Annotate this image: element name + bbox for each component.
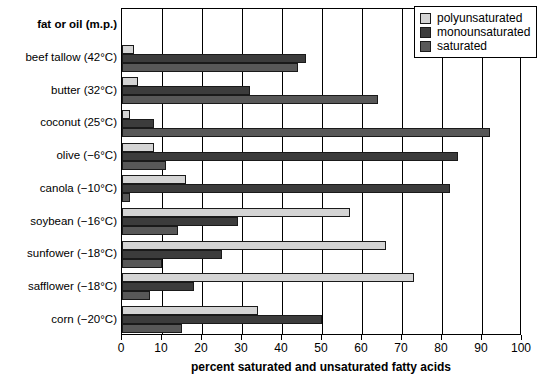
bar-group xyxy=(122,175,520,202)
x-axis-tick-labels: 0102030405060708090100 xyxy=(121,341,521,357)
bar-monounsaturated xyxy=(122,54,306,63)
bar-group xyxy=(122,273,520,300)
x-axis-tick xyxy=(201,335,202,340)
bar-polyunsaturated xyxy=(122,208,350,217)
x-axis-tick-label: 100 xyxy=(511,341,531,355)
bar-polyunsaturated xyxy=(122,143,154,152)
bar-polyunsaturated xyxy=(122,273,414,282)
bar-polyunsaturated xyxy=(122,45,134,54)
bar-group xyxy=(122,110,520,137)
bar-monounsaturated xyxy=(122,217,238,226)
legend: polyunsaturatedmonounsaturatedsaturated xyxy=(414,6,537,58)
bar-polyunsaturated xyxy=(122,110,130,119)
bar-saturated xyxy=(122,128,490,137)
legend-item: monounsaturated xyxy=(420,25,530,39)
bar-group xyxy=(122,241,520,268)
bar-saturated xyxy=(122,95,378,104)
fatty-acid-bar-chart: fat or oil (m.p.)beef tallow (42°C)butte… xyxy=(0,0,559,388)
bar-polyunsaturated xyxy=(122,306,258,315)
x-axis-tick-label: 50 xyxy=(314,341,327,355)
bar-group xyxy=(122,208,520,235)
bar-group xyxy=(122,143,520,170)
bar-saturated xyxy=(122,291,150,300)
x-axis-tick-label: 70 xyxy=(394,341,407,355)
bar-saturated xyxy=(122,226,178,235)
bar-monounsaturated xyxy=(122,315,322,324)
bar-monounsaturated xyxy=(122,119,154,128)
x-axis-title: percent saturated and unsaturated fatty … xyxy=(121,360,521,374)
category-label: coconut (25°C) xyxy=(0,116,117,128)
x-axis-tick-label: 20 xyxy=(194,341,207,355)
bar-polyunsaturated xyxy=(122,77,138,86)
x-axis-tick xyxy=(161,335,162,340)
x-axis-tick xyxy=(441,335,442,340)
legend-swatch-icon xyxy=(420,27,431,38)
bar-monounsaturated xyxy=(122,86,250,95)
category-label: corn (−20°C) xyxy=(0,313,117,325)
bar-monounsaturated xyxy=(122,152,458,161)
category-label: beef tallow (42°C) xyxy=(0,51,117,63)
bar-monounsaturated xyxy=(122,250,222,259)
legend-swatch-icon xyxy=(420,13,431,24)
x-axis-tick-label: 60 xyxy=(354,341,367,355)
legend-swatch-icon xyxy=(420,41,431,52)
x-axis-tick xyxy=(521,335,522,340)
legend-label: monounsaturated xyxy=(437,25,530,39)
category-label: soybean (−16°C) xyxy=(0,215,117,227)
bar-monounsaturated xyxy=(122,184,450,193)
x-axis-tick xyxy=(321,335,322,340)
category-label: butter (32°C) xyxy=(0,84,117,96)
x-axis-tick xyxy=(241,335,242,340)
legend-item: polyunsaturated xyxy=(420,11,530,25)
x-axis-tick xyxy=(481,335,482,340)
bar-saturated xyxy=(122,63,298,72)
bar-polyunsaturated xyxy=(122,241,386,250)
bar-saturated xyxy=(122,193,130,202)
category-axis-labels: fat or oil (m.p.)beef tallow (42°C)butte… xyxy=(0,8,117,335)
x-axis-tick xyxy=(401,335,402,340)
category-label: canola (−10°C) xyxy=(0,182,117,194)
x-axis-tick xyxy=(121,335,122,340)
x-axis-tick-label: 30 xyxy=(234,341,247,355)
category-label: olive (−6°C) xyxy=(0,149,117,161)
bar-saturated xyxy=(122,259,162,268)
category-label: sunfower (−18°C) xyxy=(0,247,117,259)
legend-label: saturated xyxy=(437,39,487,53)
bar-group xyxy=(122,306,520,333)
bar-polyunsaturated xyxy=(122,175,186,184)
bar-monounsaturated xyxy=(122,282,194,291)
x-axis-tick-label: 10 xyxy=(154,341,167,355)
x-axis-tick-label: 90 xyxy=(474,341,487,355)
bar-group xyxy=(122,77,520,104)
legend-item: saturated xyxy=(420,39,530,53)
x-axis-tick-label: 80 xyxy=(434,341,447,355)
category-axis-title: fat or oil (m.p.) xyxy=(0,18,117,30)
x-axis-tick xyxy=(361,335,362,340)
legend-label: polyunsaturated xyxy=(437,11,522,25)
bar-saturated xyxy=(122,161,166,170)
bar-saturated xyxy=(122,324,182,333)
category-label: safflower (−18°C) xyxy=(0,280,117,292)
x-axis-tick-label: 0 xyxy=(118,341,125,355)
x-axis-tick xyxy=(281,335,282,340)
x-axis-tick-label: 40 xyxy=(274,341,287,355)
